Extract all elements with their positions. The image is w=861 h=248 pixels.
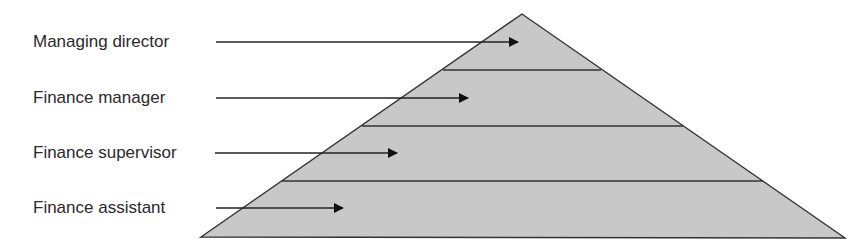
level-label-managing-director: Managing director [33, 32, 169, 52]
level-label-finance-assistant: Finance assistant [33, 198, 165, 218]
level-label-finance-manager: Finance manager [33, 88, 165, 108]
hierarchy-pyramid-diagram: Managing director Finance manager Financ… [0, 0, 861, 248]
level-label-finance-supervisor: Finance supervisor [33, 143, 177, 163]
